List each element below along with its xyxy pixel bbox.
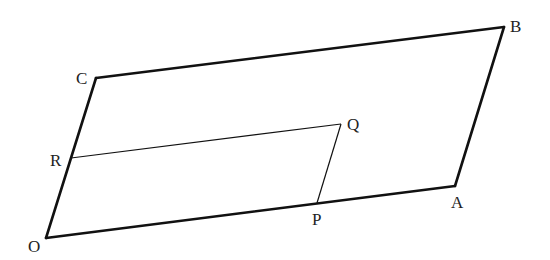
label-r: R (50, 151, 62, 170)
label-b: B (510, 17, 521, 36)
edge-BC (96, 27, 504, 78)
point-labels: OABCPQR (28, 17, 521, 256)
parallelogram-diagram: OABCPQR (0, 0, 550, 260)
segment-RQ (71, 124, 341, 158)
edge-OA (46, 186, 455, 238)
label-o: O (28, 237, 40, 256)
label-q: Q (347, 115, 359, 134)
segment-QP (317, 124, 341, 203)
label-a: A (451, 193, 464, 212)
label-c: C (76, 69, 87, 88)
inner-segments (71, 124, 341, 203)
edge-AB (455, 27, 504, 186)
label-p: P (312, 210, 321, 229)
